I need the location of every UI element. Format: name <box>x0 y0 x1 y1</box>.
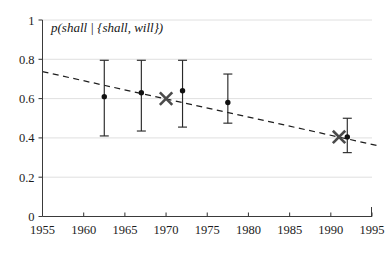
y-tick-label: 0.8 <box>19 53 35 67</box>
x-tick-label: 1995 <box>360 223 385 237</box>
y-tick-label: 1 <box>28 14 34 28</box>
x-axis-ticks-group: 195519601965197019751980198519901995 <box>30 213 385 237</box>
data-point-dot <box>180 88 185 93</box>
x-tick-label: 1960 <box>71 223 96 237</box>
data-point-dot <box>345 134 350 139</box>
x-tick-label: 1985 <box>277 223 302 237</box>
y-tick-label: 0.2 <box>19 171 35 185</box>
probability-trend-scatter-chart: 00.20.40.60.81 1955196019651970197519801… <box>0 0 389 254</box>
x-tick-label: 1990 <box>318 223 343 237</box>
x-tick-label: 1980 <box>236 223 261 237</box>
x-tick-label: 1955 <box>30 223 55 237</box>
data-point-dot <box>225 100 230 105</box>
y-tick-label: 0.4 <box>19 131 35 145</box>
x-tick-label: 1970 <box>154 223 179 237</box>
series-label: p(shall | {shall, will}) <box>50 20 163 35</box>
x-tick-label: 1975 <box>195 223 220 237</box>
chart-container: 00.20.40.60.81 1955196019651970197519801… <box>0 0 389 254</box>
y-tick-label: 0.6 <box>19 92 35 106</box>
x-tick-label: 1965 <box>112 223 137 237</box>
data-point-dot <box>139 90 144 95</box>
data-point-dot <box>102 94 107 99</box>
